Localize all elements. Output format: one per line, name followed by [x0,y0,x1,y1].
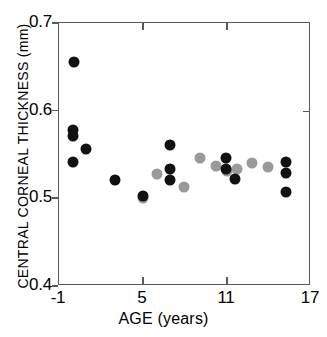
data-point-black-5 [110,174,121,185]
y-tick-label-0.7: 0.7 [29,12,52,32]
data-point-gray-3 [195,153,206,164]
y-tick-label-0.6: 0.6 [29,100,52,120]
data-point-gray-7 [247,158,258,169]
data-point-black-14 [280,167,291,178]
x-tick-label-5: 5 [137,288,146,308]
x-axis-title: AGE (years) [0,310,327,328]
data-point-black-8 [164,163,175,174]
data-point-black-11 [220,163,231,174]
data-point-black-0 [69,57,80,68]
data-point-gray-2 [178,181,189,192]
data-point-gray-1 [152,168,163,179]
data-point-black-6 [138,190,149,201]
x-tick-label--1: -1 [51,288,66,308]
x-tick-label-17: 17 [301,288,320,308]
plot-area [58,22,310,285]
y-tick-mark-0.4 [52,285,58,287]
y-tick-label-0.4: 0.4 [29,275,52,295]
y-tick-label-0.5: 0.5 [29,187,52,207]
data-point-gray-6 [231,163,242,174]
data-point-black-15 [280,187,291,198]
data-point-black-13 [280,157,291,168]
data-point-black-7 [164,139,175,150]
data-point-black-4 [80,144,91,155]
x-tick-label-11: 11 [217,288,234,308]
scatter-plot-figure: 0.7 0.6 0.5 0.4 -1 5 11 17 AGE (years) C… [0,0,327,337]
data-points-layer [59,23,309,284]
data-point-black-12 [230,174,241,185]
data-point-black-10 [220,153,231,164]
y-axis-title: CENTRAL CORNEAL THICKNESS (mm) [15,11,31,301]
data-point-gray-8 [262,161,273,172]
data-point-black-9 [164,174,175,185]
data-point-black-3 [68,156,79,167]
data-point-black-2 [68,131,79,142]
